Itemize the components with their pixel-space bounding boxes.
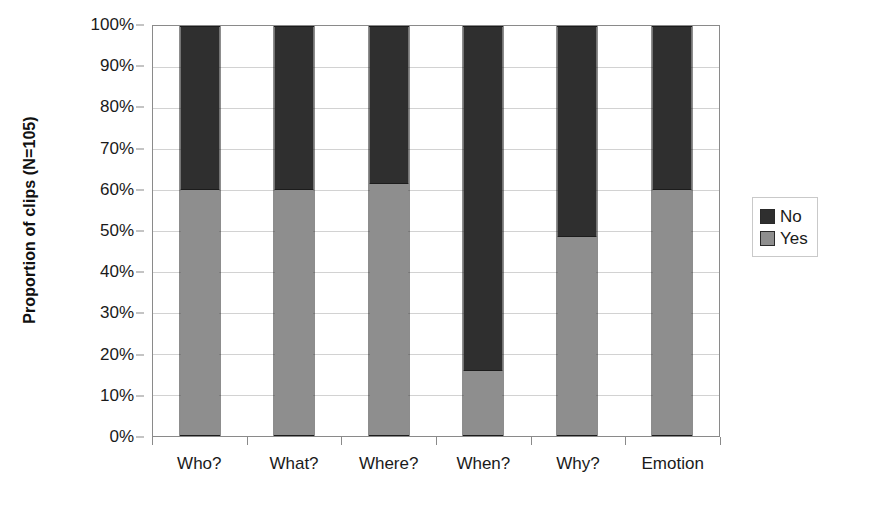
bar-segment-yes[interactable]	[558, 237, 597, 435]
y-tick-label: 90%	[100, 56, 134, 76]
y-tick-mark	[136, 25, 144, 26]
stacked-bar[interactable]	[557, 26, 598, 436]
y-tick-mark	[136, 231, 144, 232]
bar-segment-no[interactable]	[464, 27, 503, 371]
y-tick-label: 10%	[100, 386, 134, 406]
x-tick-label: What?	[269, 454, 318, 474]
chart-legend: NoYes	[752, 197, 818, 257]
y-tick-label: 100%	[91, 15, 134, 35]
y-axis-title-text: Proportion of clips (N=105)	[21, 116, 39, 324]
chart-figure: Proportion of clips (N=105) 0%10%20%30%4…	[0, 0, 870, 513]
bar-segment-yes[interactable]	[652, 190, 691, 435]
stacked-bar[interactable]	[463, 26, 504, 436]
y-tick-label: 50%	[100, 221, 134, 241]
x-tick-label: Why?	[556, 454, 599, 474]
legend-swatch-icon	[760, 231, 775, 246]
y-tick-label: 20%	[100, 345, 134, 365]
y-tick-mark	[136, 437, 144, 438]
legend-item[interactable]: No	[760, 208, 808, 225]
y-tick-label: 30%	[100, 303, 134, 323]
bar-segment-no[interactable]	[275, 27, 314, 190]
legend-label: Yes	[780, 230, 808, 247]
y-tick-mark	[136, 395, 144, 396]
stacked-bar[interactable]	[274, 26, 315, 436]
plot-area	[152, 25, 720, 437]
x-tick-mark	[625, 437, 626, 445]
x-tick-mark	[247, 437, 248, 445]
bar-group[interactable]	[342, 26, 436, 436]
y-tick-mark	[136, 148, 144, 149]
x-tick-mark	[341, 437, 342, 445]
x-tick-mark	[531, 437, 532, 445]
legend-swatch-icon	[760, 209, 775, 224]
x-tick-label: Where?	[359, 454, 419, 474]
y-tick-label: 80%	[100, 97, 134, 117]
x-tick-label: When?	[456, 454, 510, 474]
y-tick-label: 60%	[100, 180, 134, 200]
stacked-bar[interactable]	[180, 26, 221, 436]
bar-segment-yes[interactable]	[275, 190, 314, 435]
stacked-bar[interactable]	[368, 26, 409, 436]
y-tick-label: 70%	[100, 139, 134, 159]
x-axis: Who?What?Where?When?Why?Emotion	[152, 437, 720, 497]
y-axis-title: Proportion of clips (N=105)	[12, 0, 48, 440]
x-tick-mark	[436, 437, 437, 445]
x-tick-label: Emotion	[641, 454, 703, 474]
bar-segment-yes[interactable]	[181, 190, 220, 435]
y-axis-tick-labels: 0%10%20%30%40%50%60%70%80%90%100%	[52, 25, 144, 437]
bar-segment-no[interactable]	[652, 27, 691, 190]
stacked-bar[interactable]	[651, 26, 692, 436]
y-tick-label: 0%	[109, 427, 134, 447]
bar-segment-no[interactable]	[181, 27, 220, 190]
y-tick-mark	[136, 313, 144, 314]
bar-group[interactable]	[153, 26, 247, 436]
bar-group[interactable]	[247, 26, 341, 436]
y-tick-label: 40%	[100, 262, 134, 282]
y-tick-mark	[136, 354, 144, 355]
legend-item[interactable]: Yes	[760, 230, 808, 247]
bar-segment-no[interactable]	[369, 27, 408, 184]
y-tick-mark	[136, 272, 144, 273]
bar-group[interactable]	[530, 26, 624, 436]
y-tick-mark	[136, 66, 144, 67]
x-tick-label: Who?	[177, 454, 221, 474]
bar-segment-yes[interactable]	[464, 371, 503, 435]
y-tick-mark	[136, 189, 144, 190]
x-tick-mark	[152, 437, 153, 445]
bar-segment-yes[interactable]	[369, 184, 408, 435]
y-tick-mark	[136, 107, 144, 108]
x-tick-mark	[720, 437, 721, 445]
bar-group[interactable]	[436, 26, 530, 436]
legend-label: No	[780, 208, 802, 225]
bar-group[interactable]	[625, 26, 719, 436]
bar-segment-no[interactable]	[558, 27, 597, 237]
